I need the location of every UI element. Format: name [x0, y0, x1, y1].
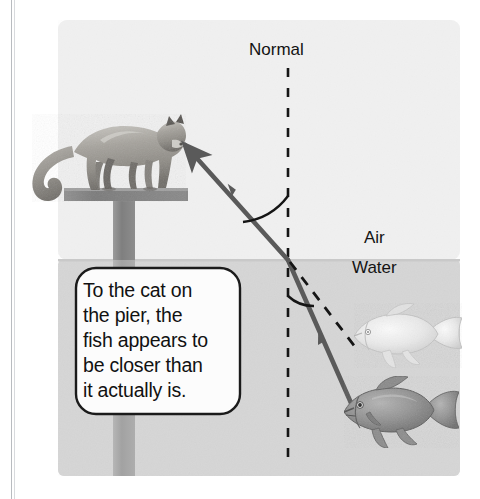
callout-line: fish appears to — [83, 328, 231, 353]
refraction-scene — [0, 0, 480, 499]
callout-line: it actually is. — [83, 378, 231, 403]
callout-line: the pier, the — [83, 303, 231, 328]
callout-line: be closer than — [83, 353, 231, 378]
callout-line: To the cat on — [83, 278, 231, 303]
figure-panel: Normal Air Water To the cat on the pier,… — [0, 0, 480, 499]
pier-post-above-water — [113, 196, 135, 260]
label-normal: Normal — [249, 40, 304, 60]
callout-text: To the cat on the pier, the fish appears… — [83, 278, 231, 403]
label-water: Water — [352, 258, 397, 278]
cat-nose — [179, 142, 182, 145]
label-air: Air — [364, 228, 385, 248]
